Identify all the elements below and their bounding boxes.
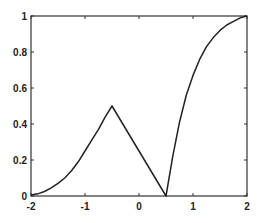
line-chart: -2-101200.20.40.60.81 [0, 0, 263, 223]
x-tick-label: -2 [27, 201, 36, 212]
axes-frame [31, 16, 247, 196]
y-tick-label: 0.8 [13, 47, 27, 58]
x-tick-label: 0 [136, 201, 142, 212]
x-tick-label: -1 [81, 201, 90, 212]
y-tick-label: 0 [21, 191, 27, 202]
x-tick-label: 2 [244, 201, 250, 212]
y-tick-label: 0.2 [13, 155, 27, 166]
x-tick-label: 1 [190, 201, 196, 212]
y-tick-label: 1 [21, 11, 27, 22]
y-tick-label: 0.6 [13, 83, 27, 94]
y-tick-label: 0.4 [13, 119, 27, 130]
